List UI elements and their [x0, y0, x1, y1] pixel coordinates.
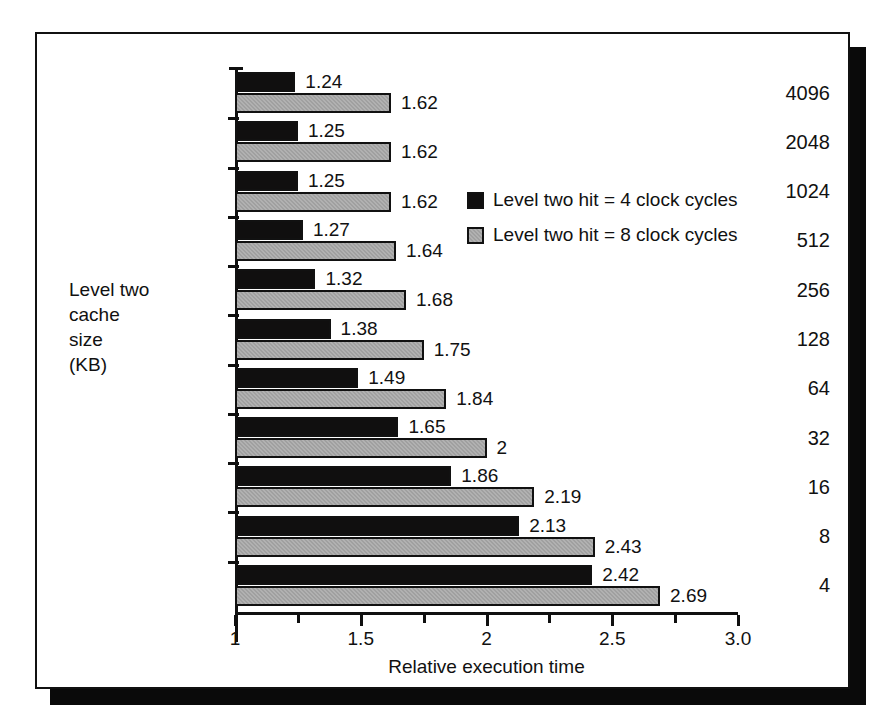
y-axis-tick	[228, 462, 239, 465]
bar-4096-series0	[235, 72, 295, 92]
legend-label: Level two hit = 8 clock cycles	[493, 224, 737, 246]
bar-32-series0	[235, 417, 398, 437]
legend-label: Level two hit = 4 clock cycles	[493, 189, 737, 211]
bar-value-label: 1.62	[401, 141, 438, 163]
x-axis-tick	[737, 615, 740, 626]
bar-value-label: 1.62	[401, 191, 438, 213]
bar-value-label: 2.19	[544, 486, 581, 508]
bar-value-label: 1.49	[368, 367, 405, 389]
bar-4096-series1	[235, 93, 391, 113]
x-axis-tick	[234, 615, 237, 626]
x-axis-minor-tick	[423, 615, 426, 623]
bar-value-label: 1.62	[401, 92, 438, 114]
legend-entry-0: Level two hit = 4 clock cycles	[467, 189, 737, 211]
bar-32-series1	[235, 438, 487, 458]
y-axis-label-16: 16	[672, 475, 848, 498]
x-axis-tick-label: 2.5	[599, 628, 625, 650]
bar-value-label: 1.38	[341, 318, 378, 340]
x-axis-minor-tick	[297, 615, 300, 623]
bar-128-series1	[235, 340, 424, 360]
bar-2048-series1	[235, 142, 391, 162]
y-axis-tick	[228, 265, 239, 268]
bar-8-series0	[235, 516, 519, 536]
y-axis-tick	[228, 216, 239, 219]
y-axis-label-128: 128	[672, 328, 848, 351]
bar-value-label: 1.86	[461, 465, 498, 487]
bar-value-label: 1.25	[308, 120, 345, 142]
bar-value-label: 1.32	[325, 268, 362, 290]
y-axis-label-32: 32	[672, 426, 848, 449]
bar-16-series0	[235, 466, 451, 486]
bar-1024-series1	[235, 192, 391, 212]
bar-value-label: 2.13	[529, 515, 566, 537]
black-square-icon	[467, 192, 484, 209]
bar-value-label: 2.69	[670, 585, 707, 607]
bar-value-label: 1.25	[308, 170, 345, 192]
bar-value-label: 1.27	[313, 219, 350, 241]
y-axis-tick	[228, 561, 239, 564]
y-axis-tick	[228, 117, 239, 120]
x-axis-tick-label: 3.0	[725, 628, 751, 650]
bar-4-series0	[235, 565, 592, 585]
bar-1024-series0	[235, 171, 298, 191]
y-axis-tick	[228, 413, 239, 416]
x-axis-tick	[486, 615, 489, 626]
y-axis-label-8: 8	[672, 525, 848, 548]
y-axis-title: Level two cache size (KB)	[69, 277, 149, 377]
y-axis-label-4096: 4096	[672, 81, 848, 104]
bar-value-label: 1.64	[406, 240, 443, 262]
bar-512-series0	[235, 220, 303, 240]
bar-value-label: 1.65	[408, 416, 445, 438]
bar-512-series1	[235, 241, 396, 261]
figure-frame: 40962048102451225612864321684 1.241.621.…	[35, 32, 850, 689]
bar-value-label: 1.68	[416, 289, 453, 311]
bar-value-label: 2.43	[605, 536, 642, 558]
y-axis-label-2048: 2048	[672, 130, 848, 153]
bar-4-series1	[235, 586, 660, 606]
x-axis-minor-tick	[674, 615, 677, 623]
x-axis-tick-label: 2	[481, 628, 492, 650]
chart-legend: Level two hit = 4 clock cyclesLevel two …	[467, 189, 737, 259]
x-axis-tick-label: 1.5	[348, 628, 374, 650]
y-axis-label-256: 256	[672, 278, 848, 301]
x-axis-tick	[360, 615, 363, 626]
y-axis-label-64: 64	[672, 377, 848, 400]
plot-area: 40962048102451225612864321684 1.241.621.…	[37, 34, 848, 687]
bar-256-series1	[235, 290, 406, 310]
bar-64-series1	[235, 389, 446, 409]
y-axis-tick	[228, 167, 239, 170]
bar-value-label: 1.24	[305, 71, 342, 93]
x-axis-title: Relative execution time	[235, 656, 738, 678]
x-axis-tick	[611, 615, 614, 626]
bar-16-series1	[235, 487, 534, 507]
bar-value-label: 2	[497, 437, 508, 459]
y-axis-tick	[228, 314, 239, 317]
gray-square-icon	[467, 227, 484, 244]
y-axis-tick	[228, 511, 239, 514]
bar-value-label: 1.84	[456, 388, 493, 410]
x-axis-minor-tick	[548, 615, 551, 623]
bar-8-series1	[235, 537, 595, 557]
bar-64-series0	[235, 368, 358, 388]
y-axis-tick	[228, 364, 239, 367]
bar-value-label: 2.42	[602, 564, 639, 586]
bar-2048-series0	[235, 121, 298, 141]
bar-value-label: 1.75	[434, 339, 471, 361]
bar-128-series0	[235, 319, 331, 339]
x-axis-tick-label: 1	[230, 628, 241, 650]
legend-entry-1: Level two hit = 8 clock cycles	[467, 224, 737, 246]
bar-256-series0	[235, 269, 315, 289]
